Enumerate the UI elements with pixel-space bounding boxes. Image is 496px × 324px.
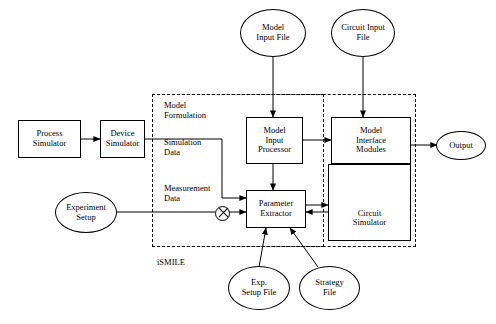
ellipse-circuit-input-file[interactable]: Circuit InputFile — [331, 9, 395, 57]
block-parameter-extractor[interactable]: ParameterExtractor — [246, 190, 306, 228]
block-device-simulator[interactable]: DeviceSimulator — [100, 120, 145, 158]
ellipse-strategy-file[interactable]: StrategyFile — [299, 266, 360, 310]
summing-junction-icon — [215, 206, 230, 221]
label-measurement-data: MeasurementData — [164, 184, 210, 203]
block-model-input-processor[interactable]: ModelInputProcessor — [246, 117, 303, 164]
diagram-canvas: ProcessSimulator DeviceSimulator ModelIn… — [0, 0, 496, 324]
block-circuit-simulator[interactable]: CircuitSimulator — [328, 164, 411, 241]
ellipse-experiment-setup[interactable]: ExperimentSetup — [55, 192, 117, 233]
ellipse-model-input-file[interactable]: ModelInput File — [240, 9, 306, 57]
ellipse-output[interactable]: Output — [436, 131, 486, 160]
block-process-simulator[interactable]: ProcessSimulator — [18, 120, 81, 158]
ellipse-exp-setup-file[interactable]: Exp.Setup File — [228, 266, 290, 310]
label-ismile: iSMILE — [157, 258, 185, 268]
label-model-formulation: ModelFormulation — [164, 101, 206, 120]
block-model-interface-modules[interactable]: ModelInterfaceModules — [331, 117, 411, 164]
label-simulation-data: SimulationData — [164, 138, 201, 157]
